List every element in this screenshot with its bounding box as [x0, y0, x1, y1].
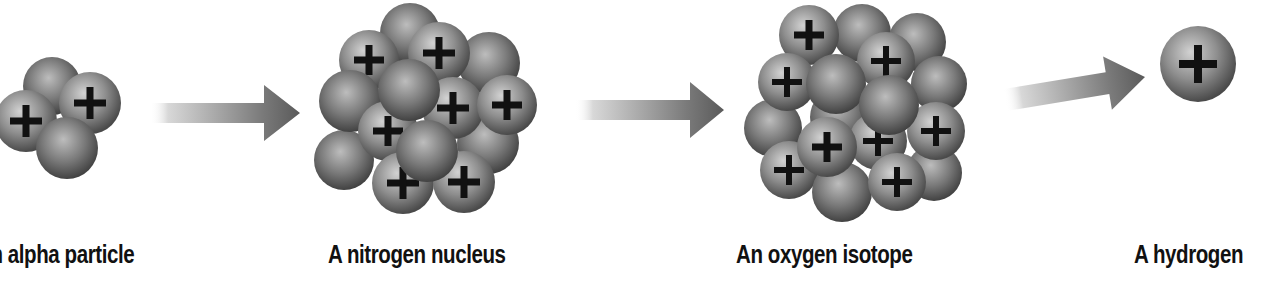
neutron-sphere: [378, 59, 440, 121]
arrow-2-icon: [575, 82, 724, 138]
oxygen-isotope-group: [744, 4, 967, 222]
arrow-1-icon: [150, 85, 300, 141]
proton-sphere: [797, 117, 857, 177]
neutron-sphere: [859, 75, 919, 135]
label-alpha-particle: An alpha particle: [0, 240, 134, 269]
arrow-3-icon: [1003, 57, 1145, 111]
neutron-sphere: [396, 120, 458, 182]
neutron-sphere: [806, 54, 866, 114]
label-hydrogen: A hydrogen: [1134, 240, 1243, 269]
neutron-sphere: [36, 117, 98, 179]
nitrogen-nucleus-group: [314, 3, 537, 214]
hydrogen-nucleus-group: [1160, 26, 1236, 102]
label-nitrogen-nucleus: A nitrogen nucleus: [328, 240, 506, 269]
transmutation-diagram: An alpha particle A nitrogen nucleus An …: [0, 0, 1280, 282]
proton-sphere: [868, 153, 926, 211]
arrows-layer: [150, 57, 1145, 142]
proton-sphere: [477, 75, 537, 135]
diagram-artwork: [0, 0, 1280, 282]
label-oxygen-isotope: An oxygen isotope: [736, 240, 912, 269]
proton-sphere: [1160, 26, 1236, 102]
alpha-particle-group: [0, 57, 121, 179]
